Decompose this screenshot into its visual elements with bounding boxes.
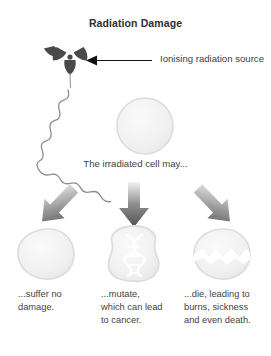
cell-icon [117, 98, 173, 154]
outcome-caption-no-damage: ...suffer no damage. [18, 288, 92, 314]
cell-icon [194, 229, 250, 279]
down-arrow-icon [119, 182, 149, 227]
outcome-caption-die: ...die, leading to burns, sickness and e… [184, 288, 264, 328]
down-arrow-icon [188, 179, 240, 232]
cell-icon [18, 229, 74, 279]
mid-caption: The irradiated cell may... [0, 158, 271, 169]
outcome-caption-mutate: ...mutate, which can lead to cancer. [101, 288, 163, 328]
down-arrow-icon [32, 179, 84, 232]
radiation-damage-diagram: Radiation Damage [0, 0, 271, 356]
pointer-arrow-icon [86, 56, 152, 66]
source-label: Ionising radiation source [160, 52, 270, 66]
cell-icon [108, 226, 159, 281]
radiation-wave-icon [31, 87, 139, 202]
radiation-trefoil-icon [44, 42, 87, 88]
